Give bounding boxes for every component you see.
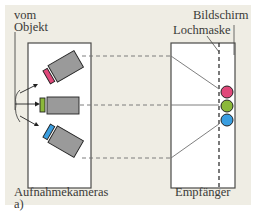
screen-label: Bildschirm: [193, 9, 249, 22]
object-label-2: Objekt: [14, 21, 48, 34]
green-dot: [221, 100, 233, 112]
cameras-label: Aufnahmekameras: [14, 186, 108, 199]
shadow-mask-label: Lochmaske: [173, 24, 231, 37]
receiver-label: Empfänger: [175, 186, 231, 199]
blue-dot: [221, 114, 233, 126]
object-bracket: [16, 90, 21, 122]
camera-body: [47, 97, 79, 114]
green-filter: [40, 98, 45, 112]
figure-part-label: a): [14, 198, 24, 211]
red-dot: [221, 86, 233, 98]
